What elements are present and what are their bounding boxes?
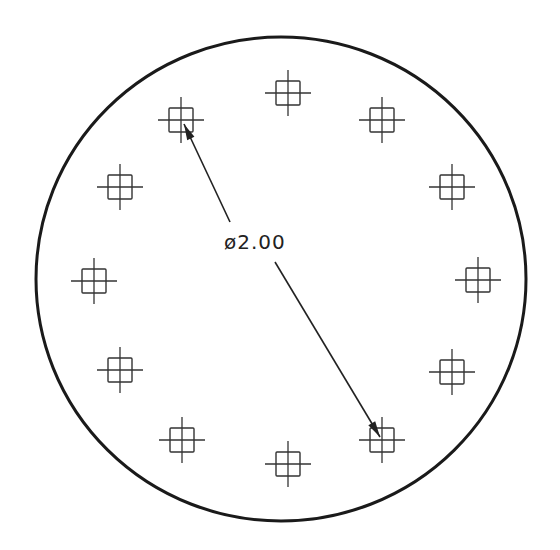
hole-markers bbox=[71, 70, 501, 487]
dimension-leader-upper bbox=[184, 124, 230, 222]
hole-marker-icon bbox=[158, 97, 204, 143]
hole-marker-icon bbox=[359, 97, 405, 143]
hole-marker-icon bbox=[359, 417, 405, 463]
dimension-leader-lower bbox=[275, 262, 380, 437]
hole-marker-icon bbox=[265, 70, 311, 116]
diameter-label: ø2.00 bbox=[224, 230, 286, 254]
hole-marker-icon bbox=[429, 349, 475, 395]
hole-marker-icon bbox=[429, 164, 475, 210]
outer-circle bbox=[36, 37, 526, 521]
hole-marker-icon bbox=[265, 441, 311, 487]
diameter-dimension: ø2.00 bbox=[184, 124, 380, 437]
hole-marker-icon bbox=[455, 257, 501, 303]
hole-marker-icon bbox=[97, 347, 143, 393]
hole-marker-icon bbox=[97, 164, 143, 210]
bolt-circle-drawing: ø2.00 bbox=[0, 0, 560, 550]
hole-marker-icon bbox=[159, 417, 205, 463]
hole-marker-icon bbox=[71, 258, 117, 304]
